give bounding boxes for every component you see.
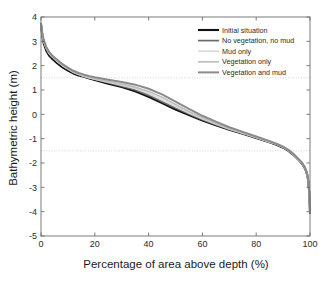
y-tick-label--5: -5 [29,231,37,241]
legend-label-no-vegetation-no-mud: No vegetation, no mud [222,36,294,45]
x-tick-label-0: 0 [38,239,43,249]
hypsometric-curve-chart: 020406080100 -5-4-3-2-101234 Percentage … [0,0,327,281]
legend-label-mud-only: Mud only [222,47,252,56]
y-tick-label-3: 3 [32,37,37,47]
y-tick-label-1: 1 [32,85,37,95]
y-axis-title: Bathymetric height (m) [7,70,19,186]
y-tick-label--3: -3 [29,183,37,193]
x-tick-label-20: 20 [90,239,100,249]
y-tick-label--4: -4 [29,207,37,217]
y-tick-label-4: 4 [32,12,37,22]
x-tick-label-40: 40 [144,239,154,249]
x-tick-label-60: 60 [197,239,207,249]
y-tick-label-0: 0 [32,110,37,120]
y-tick-label--1: -1 [29,134,37,144]
y-tick-label-2: 2 [32,61,37,71]
chart-figure: 020406080100 -5-4-3-2-101234 Percentage … [0,0,327,281]
x-axis-title: Percentage of area above depth (%) [83,258,269,270]
x-tick-label-80: 80 [251,239,261,249]
legend-label-vegetation-only: Vegetation only [222,57,272,66]
legend-label-initial-situation: Initial situation [222,26,268,35]
y-tick-label--2: -2 [29,158,37,168]
legend-label-vegetation-and-mud: Vegetation and mud [222,68,286,77]
x-tick-label-100: 100 [302,239,317,249]
